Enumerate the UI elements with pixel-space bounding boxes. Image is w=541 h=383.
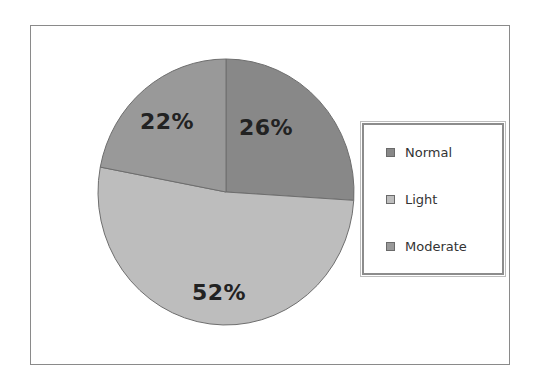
legend-item-moderate: Moderate xyxy=(386,239,467,254)
legend-label: Moderate xyxy=(405,239,467,254)
legend: Normal Light Moderate xyxy=(362,123,504,275)
legend-item-normal: Normal xyxy=(386,145,452,160)
slice-label-normal: 26% xyxy=(239,115,293,140)
slice-label-light: 52% xyxy=(192,280,246,305)
legend-swatch-icon xyxy=(386,148,395,157)
legend-label: Normal xyxy=(405,145,452,160)
legend-swatch-icon xyxy=(386,195,395,204)
legend-label: Light xyxy=(405,192,437,207)
legend-swatch-icon xyxy=(386,242,395,251)
legend-item-light: Light xyxy=(386,192,437,207)
slice-label-moderate: 22% xyxy=(140,109,194,134)
